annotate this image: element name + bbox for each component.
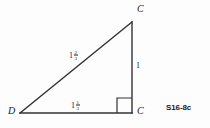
hypotenuse-fraction: 2 3 [74, 50, 78, 61]
hypotenuse-denominator: 3 [74, 55, 78, 61]
geometry-figure: C C D 1 2 3 1 1 3 1 S16-8c [0, 0, 210, 128]
base-whole-part: 1 [71, 102, 75, 110]
side-label-vertical: 1 [136, 62, 140, 70]
base-denominator: 3 [76, 105, 80, 111]
vertex-label-c-bottom-right: C [137, 106, 144, 116]
hypotenuse-whole-part: 1 [69, 52, 73, 60]
base-fraction: 1 3 [76, 100, 80, 111]
vertex-label-c-top: C [137, 4, 144, 14]
right-angle-square-icon [117, 98, 132, 113]
side-label-base: 1 1 3 [71, 100, 80, 111]
side-label-hypotenuse: 1 2 3 [69, 50, 78, 61]
mixed-number-base: 1 1 3 [71, 100, 80, 111]
mixed-number-hypotenuse: 1 2 3 [69, 50, 78, 61]
vertex-label-d: D [8, 106, 15, 116]
figure-caption: S16-8c [166, 103, 191, 112]
